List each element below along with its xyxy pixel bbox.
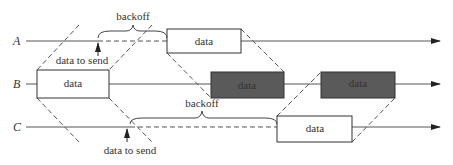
backoff-label-a: backoff <box>116 10 150 22</box>
frame-a-label: data <box>195 35 213 47</box>
station-label-a: A <box>12 34 21 48</box>
frame-b-1-label: data <box>64 77 82 89</box>
frame-c-label: data <box>306 122 324 134</box>
backoff-brace-a <box>98 25 167 38</box>
frame-b-2-label: data <box>238 79 256 91</box>
csma-timing-diagram: A B C data data data d <box>0 0 453 165</box>
data-to-send-label-a: data to send <box>56 54 109 66</box>
frame-b-2: data <box>211 72 284 98</box>
data-to-send-label-c: data to send <box>104 144 157 156</box>
frame-b-1: data <box>37 70 109 98</box>
frame-c: data <box>277 116 352 142</box>
backoff-brace-c <box>130 111 277 124</box>
station-label-b: B <box>13 77 21 91</box>
frame-a: data <box>167 29 241 53</box>
backoff-label-c: backoff <box>185 97 219 109</box>
station-label-c: C <box>13 120 22 134</box>
frame-b-3-label: data <box>349 77 367 89</box>
frame-b-3: data <box>321 72 395 98</box>
